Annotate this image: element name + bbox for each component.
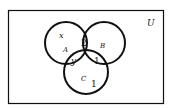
set-a-label: A [62, 46, 68, 54]
region-c-only-label: 1 [91, 79, 97, 89]
region-ac-label: y [70, 56, 77, 66]
universe-rectangle [9, 11, 164, 104]
universe-label: U [147, 18, 155, 28]
region-bc-label: 1 [94, 56, 100, 66]
set-c-label: C [81, 75, 87, 83]
set-b-label: B [99, 42, 105, 50]
venn-diagram: U x A 2 B y 1 C 1 [0, 0, 172, 108]
region-a-only-label: x [59, 31, 64, 40]
region-ab-label: 2 [81, 38, 87, 48]
